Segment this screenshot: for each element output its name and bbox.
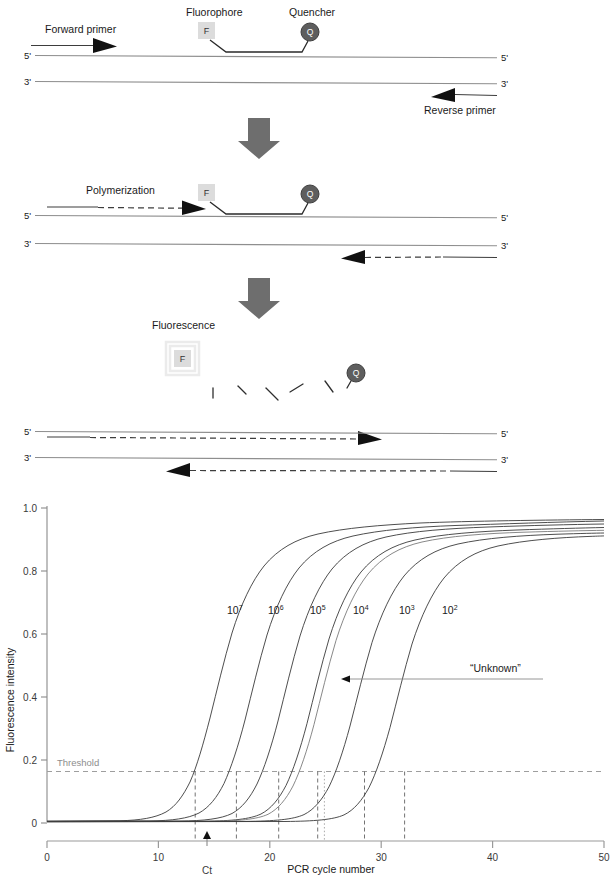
reverse-polymerization-dashed: [365, 257, 443, 258]
curve-label-1e2: 102: [442, 604, 458, 617]
step-arrow-2: [238, 278, 280, 319]
fluorophore-label: Fluorophore: [186, 6, 243, 18]
x-axis-ticks: [47, 841, 604, 848]
quencher-tail-icon: [347, 381, 351, 388]
quencher-label: Quencher: [289, 6, 336, 18]
y-tick-label-04: 0.4: [23, 692, 37, 703]
unknown-annotation: “Unknown”: [341, 662, 543, 683]
strand-bottom-2: [35, 244, 497, 246]
curve-label-1e7: 107: [227, 604, 243, 617]
quencher-glyph: Q: [307, 27, 314, 37]
strand-top: [35, 56, 497, 58]
x-tick-label-20: 20: [264, 852, 276, 863]
curve-1e4: [47, 528, 604, 822]
strand3-right-5prime: 5': [501, 212, 508, 223]
reverse-primer-arrowhead-3: [166, 463, 190, 477]
probe-strand-2: [210, 202, 308, 214]
panel-1: Forward primer Fluorophore Quencher Reve…: [24, 6, 508, 116]
ct-drop-lines: [195, 772, 404, 842]
strand-bottom-3: [35, 458, 497, 460]
full-extension-dashed: [90, 438, 358, 440]
curve-label-1e3: 103: [399, 604, 415, 617]
released-nucleotide-icon-3: [266, 388, 278, 400]
reverse-primer-line: [455, 95, 497, 96]
fluorophore-glyph: F: [204, 26, 210, 36]
fluorophore-glyph-3: F: [180, 354, 186, 364]
fluorophore-glyph-2: F: [204, 188, 210, 198]
strand1-left-5prime: 5': [24, 50, 31, 61]
quencher-glyph-3: Q: [353, 368, 360, 378]
unknown-annotation-label: “Unknown”: [470, 662, 521, 674]
strand5-right-5prime: 5': [501, 428, 508, 439]
unknown-annotation-arrowhead: [341, 676, 350, 683]
x-tick-label-40: 40: [487, 852, 499, 863]
fluorescence-label: Fluorescence: [152, 319, 215, 331]
figure-root: Forward primer Fluorophore Quencher Reve…: [0, 0, 614, 881]
y-axis-title: Fluorescence intensity: [4, 647, 16, 752]
x-tick-label-0: 0: [44, 852, 50, 863]
y-tick-label-0: 0: [31, 818, 37, 829]
strand4-right-3prime: 3': [501, 240, 508, 251]
forward-primer-arrowhead-2: [182, 201, 206, 216]
x-tick-label-50: 50: [598, 852, 610, 863]
quencher-glyph-2: Q: [307, 189, 314, 199]
curve-label-1e6: 106: [268, 604, 284, 617]
ct-arrow-icon: [203, 831, 211, 839]
curve-label-1e5: 105: [310, 604, 326, 617]
forward-primer-label: Forward primer: [45, 23, 117, 35]
strand6-right-3prime: 3': [501, 454, 508, 465]
y-tick-label-08: 0.8: [23, 566, 37, 577]
forward-primer-arrowhead: [93, 38, 117, 53]
strand-top-3: [35, 432, 497, 434]
strand3-left-5prime: 5': [24, 210, 31, 221]
released-nucleotide-icon-4: [290, 384, 303, 392]
reverse-primer-arrowhead-2: [341, 250, 365, 264]
reverse-primer-arrowhead: [431, 88, 455, 102]
reverse-primer-label: Reverse primer: [424, 104, 496, 116]
panel-2: Polymerization F Q 5' 5' 3' 3': [24, 184, 508, 264]
x-axis-title: PCR cycle number: [287, 863, 375, 875]
reverse-primer-line-3: [450, 471, 497, 472]
y-tick-label-1: 1.0: [23, 503, 37, 514]
strand4-left-3prime: 3': [24, 238, 31, 249]
ct-label: Ct: [202, 865, 212, 876]
threshold-label: Threshold: [57, 757, 99, 768]
figure-svg: Forward primer Fluorophore Quencher Reve…: [0, 0, 614, 881]
amplification-chart: 1.0 0.8 0.6 0.4 0.2 0 Fluorescence inten…: [4, 503, 610, 876]
curve-unknown: [47, 530, 604, 821]
step-arrow-1: [238, 118, 280, 159]
y-tick-label-02: 0.2: [23, 755, 37, 766]
strand2-left-3prime: 3': [24, 76, 31, 87]
strand6-left-3prime: 3': [24, 452, 31, 463]
reverse-full-extension-dashed: [190, 471, 450, 472]
x-tick-label-30: 30: [376, 852, 388, 863]
strand2-right-3prime: 3': [501, 78, 508, 89]
released-nucleotide-icon-5: [325, 381, 333, 392]
y-tick-label-06: 0.6: [23, 629, 37, 640]
curve-label-1e4: 104: [353, 604, 369, 617]
x-tick-label-10: 10: [153, 852, 165, 863]
polymerization-label: Polymerization: [86, 184, 155, 196]
polymerization-dashed-extension: [98, 208, 182, 209]
strand-bottom: [35, 82, 497, 84]
panel-3: Fluorescence F Q 5' 5' 3': [24, 319, 508, 477]
released-nucleotide-icon-2: [238, 386, 246, 394]
strand-top-2: [35, 216, 497, 218]
strand5-left-5prime: 5': [24, 426, 31, 437]
reverse-primer-line-2: [443, 257, 497, 258]
probe-strand: [210, 40, 308, 52]
strand1-right-5prime: 5': [501, 52, 508, 63]
y-axis-ticks: [41, 508, 47, 823]
